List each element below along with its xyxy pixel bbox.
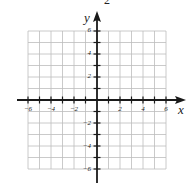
x-tick-label: 6 xyxy=(164,105,168,113)
x-axis-label: x xyxy=(177,102,184,117)
x-tick-label: −6 xyxy=(24,105,33,113)
top-partial-label: 2 xyxy=(104,0,110,7)
y-axis-label: y xyxy=(82,10,90,25)
x-tick-label: 4 xyxy=(141,105,145,113)
y-tick-label: 2 xyxy=(88,72,92,80)
x-tick-label: −4 xyxy=(47,105,56,113)
y-tick-label: −4 xyxy=(83,142,92,150)
x-tick-label: −2 xyxy=(70,105,79,113)
y-tick-label: −2 xyxy=(83,119,92,127)
y-tick-label: −6 xyxy=(83,165,92,173)
y-tick-label: 6 xyxy=(88,26,92,34)
coordinate-plane: y x 2 −6 −4 −2 2 4 6 6 4 2 −2 −4 −6 xyxy=(0,0,191,187)
x-tick-label: 2 xyxy=(118,105,122,113)
y-tick-label: 4 xyxy=(88,49,92,57)
